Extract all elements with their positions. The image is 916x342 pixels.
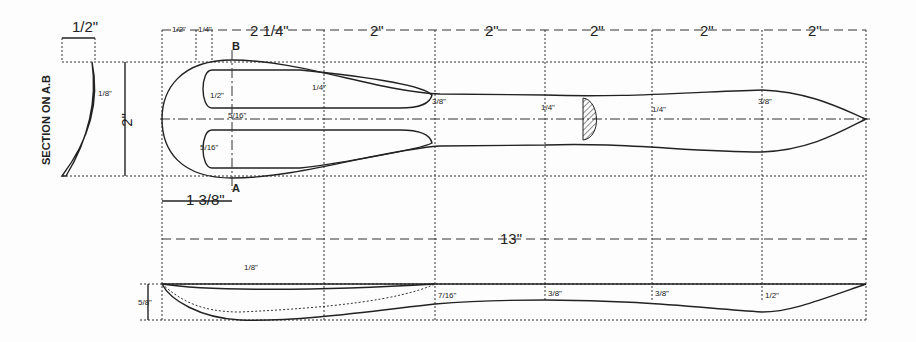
- dim-2a: 2": [370, 22, 384, 39]
- section-thickness-label: 1/8": [98, 89, 112, 98]
- marker-a: A: [232, 182, 240, 194]
- drawing-canvas: 1/2" 1/8" SECTION ON A.B 2" 1/2" 1/4" 2 …: [0, 0, 916, 342]
- plan-dim-2: 3/8": [432, 97, 446, 106]
- dim-2-1-4: 2 1/4": [250, 22, 289, 39]
- section-width-label: 1/2": [72, 18, 98, 35]
- elev-depth-label: 5/8": [138, 298, 152, 307]
- dim-2b: 2": [485, 22, 499, 39]
- offset-a-label: 1 3/8": [186, 191, 225, 208]
- plan-dim-4: 1/4": [652, 105, 666, 114]
- plan-dim-6: 5/16": [228, 111, 247, 120]
- overall-width-label: 2": [118, 113, 135, 127]
- marker-b: B: [232, 40, 240, 52]
- dim-half: 1/2": [172, 25, 186, 34]
- dim-2c: 2": [590, 22, 604, 39]
- section-view: [62, 38, 160, 176]
- plan-view: [160, 50, 870, 190]
- elevation-view: [140, 284, 866, 320]
- dim-2e: 2": [808, 22, 822, 39]
- dim-2d: 2": [700, 22, 714, 39]
- dim-quarter: 1/4": [198, 25, 212, 34]
- plan-dim-7: 5/16": [200, 143, 219, 152]
- plan-dim-3: 1/4": [541, 103, 555, 112]
- elev-bowl-label: 1/8": [244, 263, 258, 272]
- elev-station-4: 1/2": [765, 291, 779, 300]
- plan-dim-5: 3/8": [758, 97, 772, 106]
- overall-length-label: 13": [500, 230, 522, 247]
- section-title: SECTION ON A.B: [40, 75, 52, 165]
- elev-station-1: 7/16": [438, 291, 457, 300]
- plan-dim-1: 1/4": [312, 83, 326, 92]
- elev-station-3: 3/8": [655, 289, 669, 298]
- elev-station-2: 3/8": [548, 289, 562, 298]
- plan-dim-8: 1/2": [210, 91, 224, 100]
- spoon-drawing: 1/2" 1/8" SECTION ON A.B 2" 1/2" 1/4" 2 …: [0, 0, 916, 342]
